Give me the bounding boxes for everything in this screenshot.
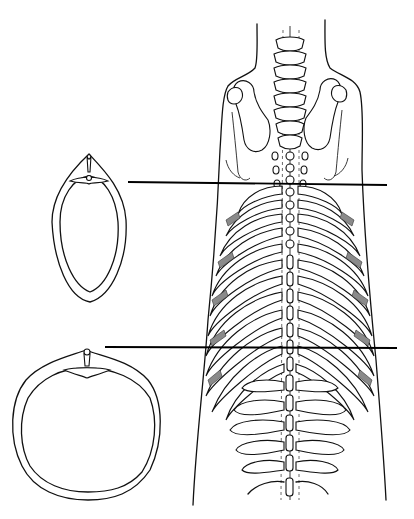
left-scapula	[226, 81, 270, 180]
anatomy-figure	[0, 0, 414, 519]
section-line-lower	[105, 347, 397, 348]
section-line-upper	[128, 182, 387, 185]
upper-cross-section	[52, 154, 126, 302]
right-scapula	[304, 79, 348, 180]
thorax-illustration	[0, 0, 414, 519]
lower-cross-section	[13, 349, 161, 500]
